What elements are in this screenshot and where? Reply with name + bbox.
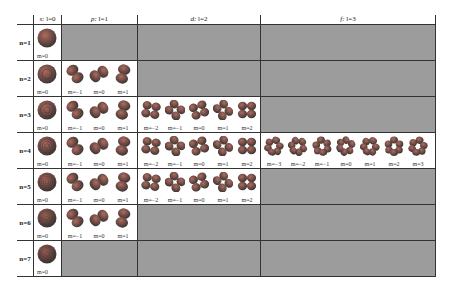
orbital: m=0 xyxy=(334,133,358,168)
f-orbital-shape-icon xyxy=(288,136,308,156)
orbital-group: m=0 xyxy=(34,97,61,132)
s-orbital-shape-icon xyxy=(37,208,57,228)
d-orbital-shape-icon xyxy=(165,100,185,120)
empty-cell-f xyxy=(261,205,436,241)
m-value-label: m=1 xyxy=(111,197,135,204)
orbital: m=−3 xyxy=(262,133,286,168)
m-value-label: m=0 xyxy=(37,233,61,240)
cell-d: m=−2m=−1m=0m=1m=2 xyxy=(138,169,261,205)
p-orbital-shape-icon xyxy=(113,64,133,84)
orbital-group: m=0 xyxy=(34,25,61,60)
d-orbital-shape-icon xyxy=(141,100,161,120)
m-value-label: m=0 xyxy=(37,269,61,276)
p-orbital-shape-icon xyxy=(113,208,133,228)
subshell-symbol: d: xyxy=(191,15,197,23)
row-label: n=1 xyxy=(17,25,34,61)
header-row: s: l=0 p: l=1 d: l=2 f: l=3 xyxy=(17,15,436,25)
orbital: m=−1 xyxy=(63,97,87,132)
m-value-label: m=−2 xyxy=(139,125,163,132)
cell-s: m=0 xyxy=(34,205,62,241)
orbital: m=−1 xyxy=(63,169,87,204)
orbital: m=0 xyxy=(35,241,61,276)
subshell-symbol: p: xyxy=(91,15,97,23)
empty-cell-p xyxy=(62,25,138,61)
m-value-label: m=2 xyxy=(382,161,406,168)
p-orbital-shape-icon xyxy=(113,136,133,156)
orbital: m=0 xyxy=(87,133,111,168)
cell-p: m=−1m=0m=1 xyxy=(62,133,138,169)
s-orbital-shape-icon xyxy=(37,64,57,84)
m-value-label: m=−1 xyxy=(63,197,87,204)
d-orbital-shape-icon xyxy=(141,172,161,192)
orbital-rows: n=1m=0n=2m=0m=−1m=0m=1n=3m=0m=−1m=0m=1m=… xyxy=(17,25,436,277)
orbital-group: m=−1m=0m=1 xyxy=(62,205,137,240)
s-orbital-shape-icon xyxy=(37,244,57,264)
row-label: n=7 xyxy=(17,241,34,277)
s-orbital-shape-icon xyxy=(37,172,57,192)
cell-p: m=−1m=0m=1 xyxy=(62,169,138,205)
p-orbital-shape-icon xyxy=(89,172,109,192)
orbital: m=−2 xyxy=(139,133,163,168)
m-value-label: m=−3 xyxy=(262,161,286,168)
orbital: m=0 xyxy=(35,205,61,240)
orbital-table: s: l=0 p: l=1 d: l=2 f: l=3 n=1m=0n=2m=0… xyxy=(17,15,436,277)
column-header-p: p: l=1 xyxy=(62,15,138,25)
cell-d: m=−2m=−1m=0m=1m=2 xyxy=(138,97,261,133)
empty-cell-f xyxy=(261,25,436,61)
orbital-group: m=−2m=−1m=0m=1m=2 xyxy=(138,97,260,132)
orbital: m=1 xyxy=(111,97,135,132)
m-value-label: m=2 xyxy=(235,125,259,132)
orbital: m=−1 xyxy=(63,61,87,96)
empty-cell-d xyxy=(138,61,261,97)
row-n5: n=5m=0m=−1m=0m=1m=−2m=−1m=0m=1m=2 xyxy=(17,169,436,205)
m-value-label: m=0 xyxy=(87,197,111,204)
row-n1: n=1m=0 xyxy=(17,25,436,61)
m-value-label: m=0 xyxy=(37,89,61,96)
l-value-label: l=1 xyxy=(99,15,108,23)
m-value-label: m=−1 xyxy=(163,161,187,168)
orbital: m=1 xyxy=(111,205,135,240)
column-header-d: d: l=2 xyxy=(138,15,261,25)
cell-s: m=0 xyxy=(34,241,62,277)
s-orbital-shape-icon xyxy=(37,136,57,156)
cell-p: m=−1m=0m=1 xyxy=(62,61,138,97)
orbital-group: m=−1m=0m=1 xyxy=(62,133,137,168)
cell-s: m=0 xyxy=(34,61,62,97)
f-orbital-shape-icon xyxy=(408,136,428,156)
m-value-label: m=2 xyxy=(235,161,259,168)
orbital: m=−1 xyxy=(63,205,87,240)
m-value-label: m=0 xyxy=(87,89,111,96)
f-orbital-shape-icon xyxy=(312,136,332,156)
m-value-label: m=0 xyxy=(87,125,111,132)
m-value-label: m=−2 xyxy=(139,197,163,204)
s-orbital-shape-icon xyxy=(37,28,57,48)
m-value-label: m=0 xyxy=(37,161,61,168)
d-orbital-shape-icon xyxy=(213,172,233,192)
orbital: m=0 xyxy=(35,97,61,132)
f-orbital-shape-icon xyxy=(336,136,356,156)
empty-cell-f xyxy=(261,241,436,277)
orbital: m=3 xyxy=(406,133,430,168)
empty-cell-d xyxy=(138,205,261,241)
orbital: m=0 xyxy=(35,61,61,96)
m-value-label: m=0 xyxy=(187,125,211,132)
orbital-group: m=−2m=−1m=0m=1m=2 xyxy=(138,133,260,168)
m-value-label: m=3 xyxy=(406,161,430,168)
row-label: n=2 xyxy=(17,61,34,97)
m-value-label: m=−1 xyxy=(310,161,334,168)
row-n4: n=4m=0m=−1m=0m=1m=−2m=−1m=0m=1m=2m=−3m=−… xyxy=(17,133,436,169)
m-value-label: m=0 xyxy=(334,161,358,168)
empty-cell-f xyxy=(261,97,436,133)
orbital: m=1 xyxy=(211,97,235,132)
orbital: m=0 xyxy=(187,169,211,204)
orbital: m=0 xyxy=(187,133,211,168)
cell-s: m=0 xyxy=(34,169,62,205)
orbital: m=1 xyxy=(111,133,135,168)
cell-f: m=−3m=−2m=−1m=0m=1m=2m=3 xyxy=(261,133,436,169)
empty-cell-f xyxy=(261,169,436,205)
d-orbital-shape-icon xyxy=(237,172,257,192)
p-orbital-shape-icon xyxy=(65,208,85,228)
orbital: m=1 xyxy=(111,169,135,204)
m-value-label: m=−1 xyxy=(63,125,87,132)
orbital: m=0 xyxy=(87,205,111,240)
